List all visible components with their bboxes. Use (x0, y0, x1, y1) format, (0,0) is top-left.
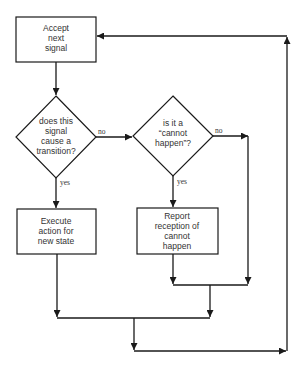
report-line-2: reception of (155, 221, 200, 231)
transition-no-label: no (98, 127, 106, 136)
execute-line-2: action for (39, 226, 74, 236)
transition-yes-label: yes (60, 178, 70, 187)
cannot-happen-line-1: is it a (163, 118, 183, 128)
flowchart-canvas: Accept next signal does this signal caus… (0, 0, 302, 367)
report-line-3: cannot (164, 231, 190, 241)
report-line-4: happen (163, 241, 192, 251)
accept-signal-node: Accept next signal (16, 17, 96, 62)
transition-line-2: signal (45, 126, 67, 136)
cannot-happen-yes-label: yes (177, 177, 187, 186)
accept-line-1: Accept (43, 23, 70, 33)
accept-line-3: signal (45, 43, 67, 53)
cannot-happen-decision-node: is it a “cannot happen”? (133, 96, 213, 176)
cannot-happen-line-2: “cannot (159, 128, 188, 138)
transition-line-3: cause a (41, 136, 71, 146)
report-line-1: Report (164, 211, 190, 221)
transition-line-4: transition? (36, 146, 75, 156)
transition-decision-node: does this signal cause a transition? (16, 96, 96, 178)
cannot-happen-line-3: happen”? (155, 138, 191, 148)
report-cannot-happen-node: Report reception of cannot happen (137, 208, 218, 254)
transition-line-1: does this (39, 116, 73, 126)
execute-action-node: Execute action for new state (17, 209, 96, 254)
cannot-happen-no-label: no (215, 126, 223, 135)
execute-line-1: Execute (41, 216, 72, 226)
execute-line-3: new state (38, 236, 75, 246)
accept-line-2: next (48, 33, 65, 43)
